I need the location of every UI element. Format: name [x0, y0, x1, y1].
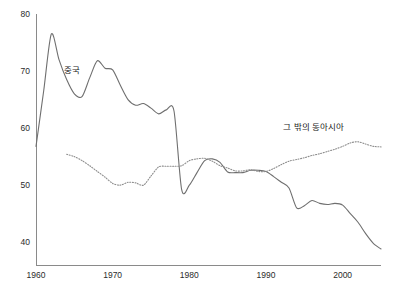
series-line-china	[36, 33, 381, 249]
y-tick-80: 80	[8, 9, 30, 19]
x-tick-1970: 1970	[93, 270, 133, 280]
y-tick-70: 70	[8, 66, 30, 76]
y-tick-40: 40	[8, 237, 30, 247]
y-tick-60: 60	[8, 123, 30, 133]
chart-container: 4050607080 19601970198019902000 중국그 밖의 동…	[0, 0, 402, 298]
y-tick-50: 50	[8, 180, 30, 190]
x-tick-1960: 1960	[16, 270, 56, 280]
series-annotation-0: 중국	[64, 63, 80, 75]
x-tick-2000: 2000	[323, 270, 363, 280]
series-line-rest-of-east-asia	[67, 142, 381, 186]
x-tick-1990: 1990	[246, 270, 286, 280]
chart-plot-area	[0, 0, 402, 298]
series-annotation-1: 그 밖의 동아시아	[283, 120, 344, 132]
x-tick-1980: 1980	[169, 270, 209, 280]
